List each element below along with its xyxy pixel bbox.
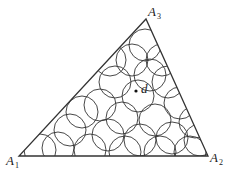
covering-circle <box>84 89 116 121</box>
vertex-label-a1: A 1 <box>5 153 19 170</box>
covering-circle <box>164 87 196 119</box>
svg-text:A: A <box>5 153 14 168</box>
covering-circle <box>99 66 131 98</box>
svg-text:A: A <box>147 4 156 19</box>
covering-circle <box>54 114 86 146</box>
covering-circle <box>109 136 141 168</box>
covering-circle <box>179 106 211 138</box>
point-d <box>134 89 137 92</box>
covering-circle <box>24 134 56 166</box>
covering-circle <box>94 44 126 76</box>
vertex-label-a2: A 2 <box>209 150 223 167</box>
covering-circle <box>106 102 138 134</box>
covering-circle <box>42 132 74 164</box>
svg-text:3: 3 <box>157 12 161 21</box>
svg-text:A: A <box>209 150 218 165</box>
svg-text:1: 1 <box>15 161 19 170</box>
point-label-d: d <box>141 81 148 96</box>
covering-circle <box>124 124 156 156</box>
covering-circles <box>24 29 216 168</box>
covering-circle <box>134 59 166 91</box>
covering-circle <box>122 80 154 112</box>
triangle-diagram: A 1 A 2 A 3 d <box>0 0 229 171</box>
covering-circle <box>144 136 176 168</box>
vertex-label-a3: A 3 <box>147 4 161 21</box>
svg-text:2: 2 <box>219 158 223 167</box>
covering-circle <box>92 119 124 151</box>
covering-circle <box>139 104 171 136</box>
covering-circle <box>74 134 106 166</box>
